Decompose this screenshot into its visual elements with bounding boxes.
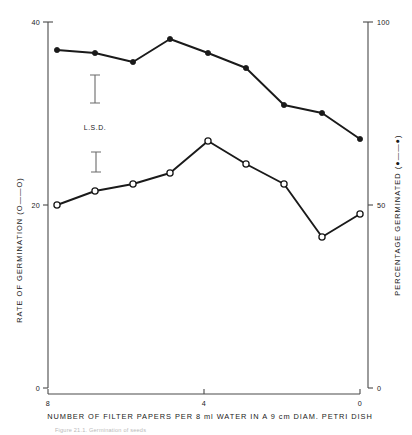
right-tick-label-0: 0: [377, 384, 381, 393]
data-point: [319, 234, 325, 240]
data-point: [281, 102, 286, 107]
data-point: [243, 161, 249, 167]
figure-caption: Figure 21.1. Germination of seeds: [55, 427, 146, 433]
right-tick-label-50: 50: [377, 201, 386, 210]
left-tick-label-40: 40: [31, 18, 40, 27]
data-point: [205, 138, 211, 144]
series-rate-of-germination: [54, 138, 363, 240]
data-point: [92, 50, 97, 55]
x-axis-title: NUMBER OF FILTER PAPERS PER 8 ml WATER I…: [47, 412, 373, 421]
left-axis-title: RATE OF GERMINATION (O——O): [15, 177, 24, 323]
x-tick-label-0: 0: [358, 399, 362, 408]
left-axis-group: 40 20 0 RATE OF GERMINATION (O——O): [15, 18, 53, 393]
data-point: [92, 188, 98, 194]
data-point: [357, 136, 362, 141]
data-point: [130, 59, 135, 64]
lsd-annotation-group: L.S.D.: [84, 75, 106, 172]
right-axis-group: 100 50 0 PERCENTAGE GERMINATED (●——●): [363, 18, 402, 393]
data-point: [205, 50, 210, 55]
data-point: [167, 36, 172, 41]
data-point: [243, 65, 248, 70]
lsd-bar-upper: [90, 75, 100, 103]
data-point: [167, 170, 173, 176]
germination-chart: 40 20 0 RATE OF GERMINATION (O——O) 100 5…: [0, 0, 412, 435]
data-point: [54, 47, 59, 52]
data-point: [130, 181, 136, 187]
data-point: [281, 181, 287, 187]
figure-container: 40 20 0 RATE OF GERMINATION (O——O) 100 5…: [0, 0, 412, 435]
x-tick-label-8: 8: [46, 399, 50, 408]
data-point: [357, 211, 363, 217]
lsd-label: L.S.D.: [84, 124, 106, 131]
series-rate-of-germination-line: [57, 141, 360, 237]
data-point: [54, 202, 60, 208]
left-tick-label-0: 0: [36, 384, 40, 393]
right-axis-title: PERCENTAGE GERMINATED (●——●): [393, 134, 402, 295]
lsd-bar-lower: [91, 152, 101, 172]
data-point: [319, 110, 324, 115]
x-axis-group: 8 4 0 NUMBER OF FILTER PAPERS PER 8 ml W…: [46, 389, 373, 421]
x-tick-label-4: 4: [202, 399, 206, 408]
right-tick-label-100: 100: [377, 18, 390, 27]
left-tick-label-20: 20: [31, 201, 40, 210]
